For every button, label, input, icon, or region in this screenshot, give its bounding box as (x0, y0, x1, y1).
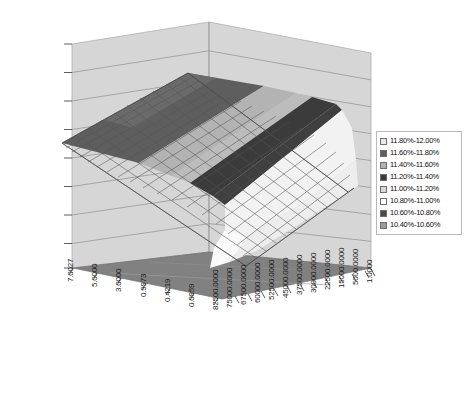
legend-item[interactable]: 11.20%-11.40% (380, 171, 458, 183)
band-legend: 11.80%-12.00% 11.60%-11.80% 11.40%-11.60… (376, 131, 462, 235)
legend-swatch-icon (380, 138, 387, 145)
legend-swatch-icon (380, 162, 387, 169)
legend-item[interactable]: 10.60%-10.80% (380, 207, 458, 219)
legend-swatch-icon (380, 222, 387, 229)
legend-item[interactable]: 11.60%-11.80% (380, 147, 458, 159)
legend-item-label: 11.60%-11.80% (390, 149, 439, 157)
surface-chart: 12.00% 11.80% 11.60% 11.40% 11.20% 11.00… (0, 0, 466, 407)
legend-item-label: 11.40%-11.60% (390, 161, 439, 169)
legend-swatch-icon (380, 186, 387, 193)
legend-swatch-icon (380, 210, 387, 217)
legend-item-label: 11.20%-11.40% (390, 173, 439, 181)
legend-swatch-icon (380, 174, 387, 181)
legend-swatch-icon (380, 150, 387, 157)
legend-item[interactable]: 11.00%-11.20% (380, 183, 458, 195)
legend-swatch-icon (380, 198, 387, 205)
legend-item[interactable]: 10.40%-10.60% (380, 219, 458, 231)
legend-item-label: 11.00%-11.20% (390, 185, 439, 193)
legend-item-label: 11.80%-12.00% (390, 137, 440, 145)
legend-item[interactable]: 10.80%-11.00% (380, 195, 458, 207)
legend-item-label: 10.80%-11.00% (390, 197, 440, 205)
legend-item[interactable]: 11.40%-11.60% (380, 159, 458, 171)
legend-item-label: 10.60%-10.80% (390, 209, 440, 217)
legend-item[interactable]: 11.80%-12.00% (380, 135, 458, 147)
legend-item-label: 10.40%-10.60% (390, 221, 440, 229)
